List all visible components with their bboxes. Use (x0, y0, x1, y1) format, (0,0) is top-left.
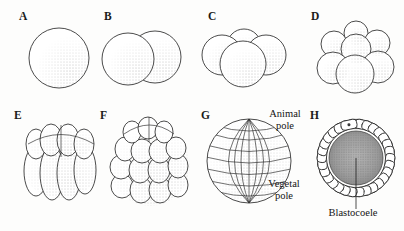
panel-f-embryo (108, 112, 192, 206)
panel-letter-f: F (100, 110, 107, 122)
panel-e-embryo (22, 113, 100, 205)
animal-pole-label: Animal pole (259, 108, 311, 132)
panel-letter-c: C (208, 11, 217, 23)
cleavage-stages-figure: A B (0, 0, 404, 231)
panel-a-embryo (24, 22, 96, 94)
panel-h-blastula-section (312, 113, 400, 205)
panel-letter-b: B (104, 11, 112, 23)
blastocoele-label: Blastocoele (305, 207, 401, 219)
panel-d-embryo (318, 16, 400, 98)
vegetal-pole-label: Vegetal pole (256, 178, 312, 202)
panel-letter-e: E (14, 110, 22, 122)
panel-b-embryo (99, 22, 189, 94)
panel-letter-a: A (19, 11, 28, 23)
panel-c-embryo (200, 22, 292, 96)
